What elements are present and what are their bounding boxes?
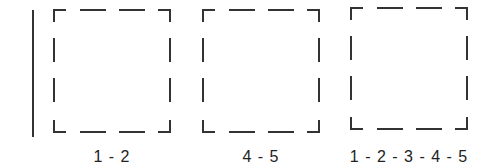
dashed-box-2 bbox=[203, 10, 319, 132]
dashed-box-3 bbox=[351, 8, 467, 129]
box-1-label: 1 - 2 bbox=[62, 148, 162, 166]
diagram-canvas bbox=[0, 0, 498, 168]
box-3-label: 1 - 2 - 3 - 4 - 5 bbox=[339, 148, 479, 166]
box-2-label: 4 - 5 bbox=[211, 148, 311, 166]
dashed-box-1 bbox=[54, 10, 170, 132]
